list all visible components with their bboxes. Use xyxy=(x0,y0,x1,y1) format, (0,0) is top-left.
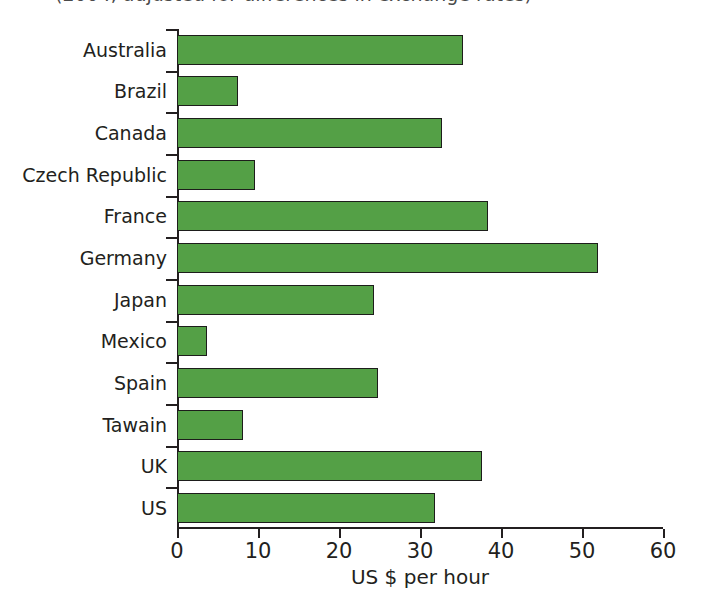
bar xyxy=(177,368,378,398)
x-axis-tick xyxy=(339,529,341,538)
y-axis-tick xyxy=(166,404,177,406)
bar-row: Spain xyxy=(0,362,703,404)
bar xyxy=(177,285,374,315)
y-axis-tick xyxy=(166,196,177,198)
x-axis-tick-label: 10 xyxy=(228,538,288,564)
y-axis-tick-label: Japan xyxy=(0,289,167,311)
x-axis-tick-label: 60 xyxy=(633,538,693,564)
bar xyxy=(177,451,482,481)
x-axis-tick xyxy=(663,529,665,538)
y-axis-tick-label: Germany xyxy=(0,247,167,269)
bar-row: UK xyxy=(0,446,703,488)
bar xyxy=(177,493,435,523)
bar-row: Australia xyxy=(0,29,703,71)
bar-row: US xyxy=(0,487,703,529)
y-axis-tick xyxy=(166,112,177,114)
y-axis-tick xyxy=(166,154,177,156)
bar xyxy=(177,118,442,148)
bar-row: Mexico xyxy=(0,321,703,363)
bar-row: Tawain xyxy=(0,404,703,446)
y-axis-tick-label: Canada xyxy=(0,122,167,144)
y-axis-tick xyxy=(166,237,177,239)
y-axis-tick xyxy=(166,29,177,31)
y-axis-tick-label: Brazil xyxy=(0,80,167,102)
y-axis-tick xyxy=(166,487,177,489)
y-axis-tick xyxy=(166,71,177,73)
bar xyxy=(177,326,207,356)
y-axis-tick-label: US xyxy=(0,497,167,519)
x-axis-tick-label: 50 xyxy=(552,538,612,564)
bar xyxy=(177,76,238,106)
bar xyxy=(177,201,488,231)
x-axis-tick xyxy=(582,529,584,538)
bar xyxy=(177,35,463,65)
y-axis-tick-label: Spain xyxy=(0,372,167,394)
bar-row: Canada xyxy=(0,112,703,154)
y-axis-tick-label: France xyxy=(0,205,167,227)
bar xyxy=(177,243,598,273)
y-axis-tick-label: UK xyxy=(0,455,167,477)
bar-chart-plot: AustraliaBrazilCanadaCzech RepublicFranc… xyxy=(0,0,703,595)
y-axis-tick xyxy=(166,321,177,323)
x-axis-tick-label: 40 xyxy=(471,538,531,564)
y-axis-tick-label: Czech Republic xyxy=(0,164,167,186)
x-axis-title: US $ per hour xyxy=(177,565,663,589)
y-axis-tick-label: Tawain xyxy=(0,414,167,436)
x-axis-tick-label: 0 xyxy=(147,538,207,564)
x-axis-tick-label: 20 xyxy=(309,538,369,564)
x-axis-tick xyxy=(501,529,503,538)
bar xyxy=(177,160,255,190)
x-axis-tick xyxy=(258,529,260,538)
bar-row: Japan xyxy=(0,279,703,321)
y-axis-tick xyxy=(166,279,177,281)
bar-row: France xyxy=(0,196,703,238)
bar-row: Germany xyxy=(0,237,703,279)
bar-row: Czech Republic xyxy=(0,154,703,196)
y-axis-tick-label: Mexico xyxy=(0,330,167,352)
y-axis-tick-label: Australia xyxy=(0,39,167,61)
x-axis-tick-label: 30 xyxy=(390,538,450,564)
x-axis-tick xyxy=(177,529,179,538)
y-axis-tick xyxy=(166,446,177,448)
bar-row: Brazil xyxy=(0,71,703,113)
x-axis-tick xyxy=(420,529,422,538)
bar xyxy=(177,410,243,440)
y-axis-tick xyxy=(166,362,177,364)
